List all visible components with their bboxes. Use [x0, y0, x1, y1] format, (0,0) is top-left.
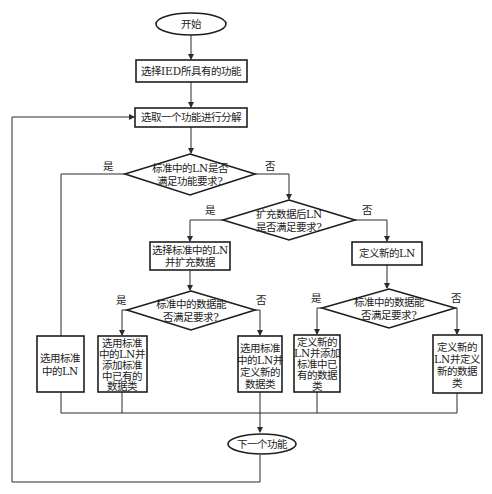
box5-line2: LN并定义 — [434, 353, 481, 365]
connector-decision4-no — [455, 308, 457, 334]
decision1-yes-label: 是 — [103, 160, 114, 172]
box4-line5: 类 — [312, 380, 323, 392]
decision-data-left-line1: 标准中的数据能 — [156, 298, 227, 310]
box-use-ln-add-existing: 选用标准 中的LN并 添加标准 中已有的 数据类 — [98, 336, 147, 392]
connector-decision3-yes — [122, 310, 127, 335]
box-new-ln-add-existing: 定义新的 LN并添加 标准中已 有的数据 类 — [294, 335, 340, 392]
connector-decision2-yes — [190, 220, 223, 241]
decision-ln-meets-line1: 标准中的LN是否 — [152, 162, 229, 174]
box3-line2: 中的LN并 — [237, 354, 283, 366]
decision3-yes-label: 是 — [116, 294, 127, 306]
box-use-standard-ln-line2: 中的LN — [42, 365, 78, 377]
select-and-extend-line2: 并扩充数据 — [165, 256, 216, 268]
decision-data-right-line1: 标准中的数据能 — [354, 296, 425, 308]
decision4-yes-label: 是 — [311, 292, 322, 304]
select-and-extend-line1: 选择标准中的LN — [152, 244, 228, 256]
decision-data-left: 标准中的数据能 否满足要求? — [127, 291, 255, 330]
decision-data-left-line2: 否满足要求? — [163, 311, 219, 323]
connector-decision2-no — [355, 220, 387, 241]
box3-line4: 数据类 — [245, 378, 276, 390]
box-use-standard-ln: 选用标准 中的LN — [37, 336, 84, 392]
decision3-no-label: 否 — [256, 294, 267, 306]
decision4-no-label: 否 — [451, 292, 462, 304]
box2-line5: 数据类 — [107, 380, 138, 392]
box3-line3: 定义新的 — [240, 366, 280, 378]
decision-extend-meets-line2: 是否满足要求? — [256, 221, 322, 233]
connector-decision1-no — [255, 174, 289, 199]
connector-decision1-yes — [61, 174, 125, 336]
decision-extend-meets: 扩充数据后LN 是否满足要求? — [223, 200, 355, 240]
decision-extend-meets-line1: 扩充数据后LN — [256, 208, 322, 220]
start-label: 开始 — [181, 18, 202, 30]
next-function-label: 下一个功能 — [237, 438, 288, 450]
box5-line1: 定义新的 — [437, 341, 477, 353]
flowchart: 开始 选择IED所具有的功能 选取一个功能进行分解 标准中的LN是否 满足功能要… — [0, 0, 492, 494]
box-new-ln-define-new: 定义新的 LN并定义 新的数据 类 — [433, 335, 482, 393]
define-new-ln-box: 定义新的LN — [352, 242, 422, 265]
decision-data-right: 标准中的数据能 否满足要求? — [322, 289, 455, 328]
decision1-no-label: 否 — [265, 160, 276, 172]
next-function-node: 下一个功能 — [228, 434, 296, 454]
box3-line1: 选用标准 — [240, 342, 280, 354]
select-functions-box: 选择IED所具有的功能 — [136, 60, 247, 82]
decision2-no-label: 否 — [362, 204, 373, 216]
connector-decision3-no — [255, 310, 260, 335]
box5-line3: 新的数据 — [437, 365, 478, 377]
decision-data-right-line2: 否满足要求? — [361, 309, 417, 321]
pick-function-box: 选取一个功能进行分解 — [135, 108, 247, 127]
select-and-extend-box: 选择标准中的LN 并扩充数据 — [150, 242, 230, 270]
box-use-standard-ln-line1: 选用标准 — [40, 352, 80, 364]
box5-line4: 类 — [452, 377, 463, 389]
decision-ln-meets-line2: 满足功能要求? — [157, 175, 223, 187]
box-use-ln-define-new: 选用标准 中的LN并 定义新的 数据类 — [237, 336, 283, 392]
define-new-ln-label: 定义新的LN — [359, 247, 415, 259]
connector-decision4-yes — [317, 308, 322, 334]
select-functions-label: 选择IED所具有的功能 — [141, 65, 242, 77]
pick-function-label: 选取一个功能进行分解 — [141, 111, 242, 123]
start-node: 开始 — [156, 13, 226, 35]
decision2-yes-label: 是 — [205, 204, 216, 216]
decision-ln-meets: 标准中的LN是否 满足功能要求? — [125, 154, 255, 195]
